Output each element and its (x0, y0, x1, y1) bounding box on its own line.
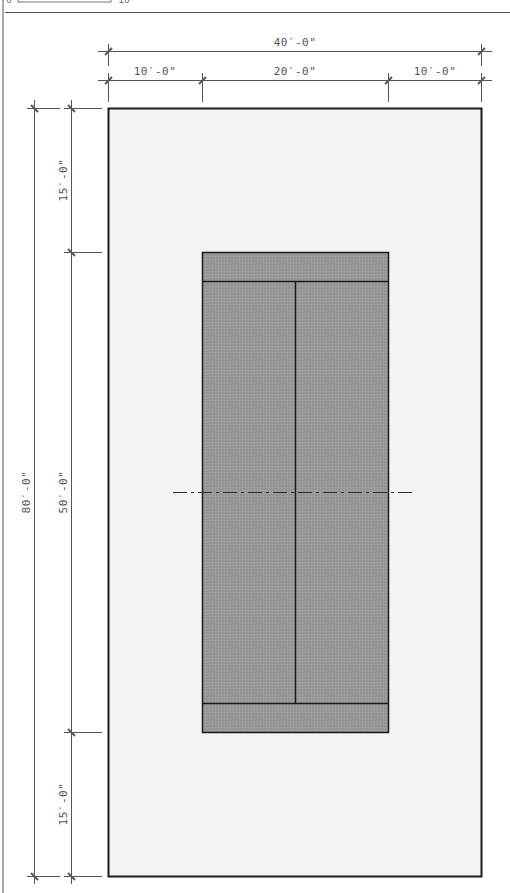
dim-top-middle: 20′-0" (274, 65, 317, 78)
dim-left-middle: 50′-0" (57, 471, 70, 514)
scale-start-label: 0 (6, 0, 12, 5)
dim-left-overall: 80′-0" (20, 471, 33, 514)
dim-top-left: 10′-0" (134, 65, 177, 78)
dim-left-bottom: 15′-0" (57, 783, 70, 826)
dim-top-overall: 40′-0" (274, 36, 317, 49)
court-plan-drawing: 0 10 40′-0" 10′-0" 20′-0" 10′-0" (0, 0, 510, 893)
scale-bar-box (18, 0, 111, 2)
scale-bar: 0 10 (6, 0, 130, 5)
dim-left-top: 15′-0" (57, 159, 70, 202)
scale-end-label: 10 (118, 0, 130, 5)
dim-top-right: 10′-0" (414, 65, 457, 78)
